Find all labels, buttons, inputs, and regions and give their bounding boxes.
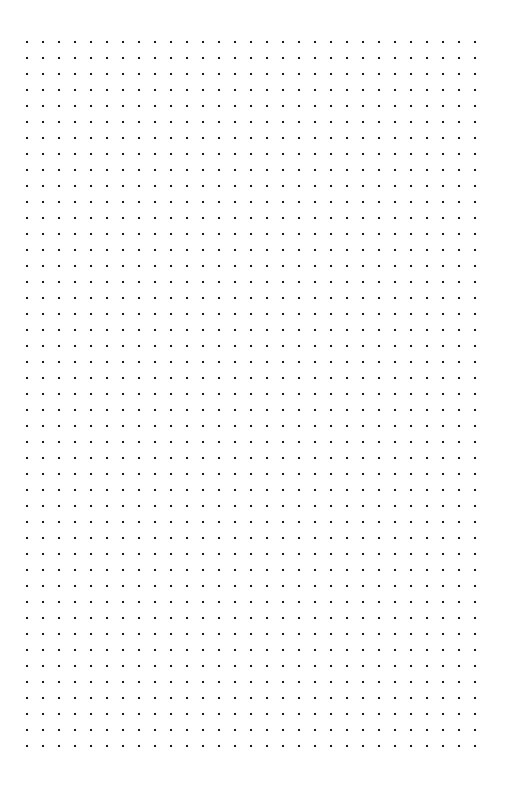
grid-dot	[410, 617, 412, 619]
grid-dot	[186, 345, 188, 347]
grid-dot	[442, 409, 444, 411]
grid-dot	[122, 441, 124, 443]
grid-dot	[250, 73, 252, 75]
grid-dot	[346, 697, 348, 699]
grid-dot	[58, 585, 60, 587]
grid-dot	[298, 681, 300, 683]
grid-dot	[378, 409, 380, 411]
grid-dot	[202, 409, 204, 411]
grid-dot	[410, 729, 412, 731]
grid-dot	[266, 537, 268, 539]
grid-dot	[202, 313, 204, 315]
grid-dot	[74, 617, 76, 619]
grid-dot	[154, 697, 156, 699]
grid-dot	[234, 281, 236, 283]
grid-dot	[426, 345, 428, 347]
grid-dot	[474, 713, 476, 715]
grid-dot	[74, 521, 76, 523]
grid-dot	[106, 665, 108, 667]
grid-dot	[250, 105, 252, 107]
grid-dot	[42, 457, 44, 459]
grid-dot	[186, 713, 188, 715]
grid-dot	[186, 377, 188, 379]
grid-dot	[218, 617, 220, 619]
grid-dot	[314, 185, 316, 187]
grid-dot	[442, 105, 444, 107]
grid-dot	[266, 393, 268, 395]
grid-dot	[394, 665, 396, 667]
grid-dot	[282, 361, 284, 363]
grid-dot	[458, 457, 460, 459]
grid-dot	[202, 345, 204, 347]
grid-dot	[410, 505, 412, 507]
grid-dot	[26, 201, 28, 203]
grid-dot	[282, 73, 284, 75]
grid-dot	[394, 409, 396, 411]
grid-dot	[122, 265, 124, 267]
grid-dot	[330, 297, 332, 299]
grid-dot	[314, 409, 316, 411]
grid-dot	[474, 153, 476, 155]
grid-dot	[154, 585, 156, 587]
grid-dot	[362, 137, 364, 139]
grid-dot	[250, 345, 252, 347]
grid-dot	[426, 361, 428, 363]
grid-dot	[26, 409, 28, 411]
grid-dot	[330, 569, 332, 571]
grid-dot	[330, 41, 332, 43]
grid-dot	[426, 473, 428, 475]
grid-dot	[218, 73, 220, 75]
grid-dot	[90, 281, 92, 283]
grid-dot	[314, 745, 316, 747]
grid-dot	[458, 441, 460, 443]
grid-dot	[362, 89, 364, 91]
grid-dot	[202, 297, 204, 299]
grid-dot	[330, 185, 332, 187]
grid-dot	[474, 281, 476, 283]
grid-dot	[426, 425, 428, 427]
grid-dot	[330, 249, 332, 251]
grid-dot	[250, 329, 252, 331]
grid-dot	[202, 73, 204, 75]
grid-dot	[298, 73, 300, 75]
grid-dot	[74, 489, 76, 491]
grid-dot	[58, 745, 60, 747]
grid-dot	[26, 569, 28, 571]
grid-dot	[346, 201, 348, 203]
grid-dot	[74, 713, 76, 715]
grid-dot	[138, 505, 140, 507]
grid-dot	[394, 617, 396, 619]
grid-dot	[250, 265, 252, 267]
grid-dot	[378, 521, 380, 523]
grid-dot	[410, 489, 412, 491]
grid-dot	[266, 601, 268, 603]
grid-dot	[410, 553, 412, 555]
grid-dot	[122, 505, 124, 507]
grid-dot	[362, 361, 364, 363]
grid-dot	[154, 745, 156, 747]
grid-dot	[154, 41, 156, 43]
grid-dot	[410, 649, 412, 651]
grid-dot	[298, 521, 300, 523]
grid-dot	[186, 649, 188, 651]
grid-dot	[138, 265, 140, 267]
grid-dot	[122, 393, 124, 395]
grid-dot	[442, 553, 444, 555]
grid-dot	[74, 41, 76, 43]
grid-dot	[170, 617, 172, 619]
grid-dot	[90, 153, 92, 155]
grid-dot	[298, 505, 300, 507]
grid-dot	[314, 41, 316, 43]
grid-dot	[474, 425, 476, 427]
grid-dot	[298, 329, 300, 331]
grid-dot	[186, 745, 188, 747]
grid-dot	[298, 425, 300, 427]
grid-dot	[74, 569, 76, 571]
grid-dot	[234, 745, 236, 747]
grid-dot	[394, 313, 396, 315]
grid-dot	[26, 249, 28, 251]
grid-dot	[442, 121, 444, 123]
grid-dot	[314, 297, 316, 299]
grid-dot	[154, 57, 156, 59]
grid-dot	[90, 41, 92, 43]
